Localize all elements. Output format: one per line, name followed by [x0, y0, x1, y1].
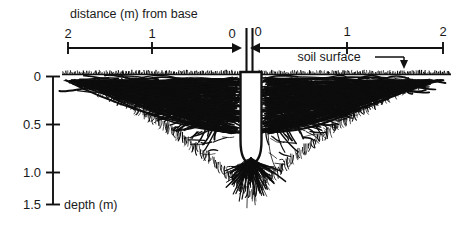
depth-tick-label-0-5: 0.5: [23, 117, 41, 132]
left-axis-tick-label-2: 2: [64, 26, 71, 41]
right-axis-tick-label-1: 1: [343, 24, 350, 39]
depth-tick-label-1-5: 1.5: [23, 197, 41, 212]
arrow-right-icon: [232, 43, 242, 53]
right-axis-tick-label-2: 2: [439, 24, 446, 39]
depth-tick-label-0: 0: [34, 69, 41, 84]
distance-axis-title: distance (m) from base: [70, 7, 198, 21]
left-axis-tick-label-1: 1: [148, 26, 155, 41]
taproot: [241, 72, 262, 163]
soil-surface-label: soil surface: [297, 50, 360, 64]
soil-surface-callout: soil surface: [297, 50, 408, 69]
right-axis-tick-label-0: 0: [254, 24, 261, 39]
depth-tick-label-1-0: 1.0: [23, 165, 41, 180]
depth-axis-title: depth (m): [64, 198, 118, 212]
arrow-down-icon: [400, 60, 408, 69]
left-distance-axis: 2 1 0: [64, 26, 242, 54]
root-system-diagram: distance (m) from base 2 1 0 0 1 2 0 0.5…: [0, 0, 463, 229]
taproot-tip-hairs: [224, 158, 286, 208]
left-axis-tick-label-0: 0: [228, 26, 235, 41]
